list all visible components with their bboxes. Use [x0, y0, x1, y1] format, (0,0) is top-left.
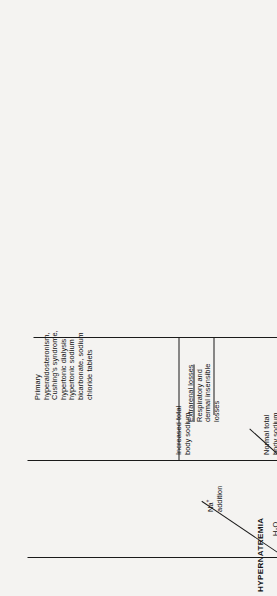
diagram-title: HYPERNATREMIA [256, 517, 265, 592]
cause-block-normal-extrarenal: Extrarenal lossesRespiratory and dermal … [186, 364, 220, 422]
mechanism-label-na-addition: Na+ addition [206, 486, 223, 512]
tick-increased-to-causes [178, 337, 179, 461]
flowchart-board: HYPERNATREMIA Na+ addition Increased tot… [0, 0, 277, 596]
mechanism-label-h2o-losses: H2O losses [271, 515, 277, 536]
spine-state [27, 460, 277, 461]
cause-block-increased-sodium: Primary hyperaldosteronism, Cushing's sy… [33, 330, 93, 400]
diagram-canvas: HYPERNATREMIA Na+ addition Increased tot… [0, 0, 277, 596]
spine-root [27, 557, 277, 558]
tick-normal-extrarenal-to-spine [213, 337, 214, 415]
cause-body-extrarenal-normal: Respiratory and dermal insensible losses [194, 364, 220, 422]
state-label-normal-total-body-sodium: Normal total body sodium [262, 413, 277, 455]
